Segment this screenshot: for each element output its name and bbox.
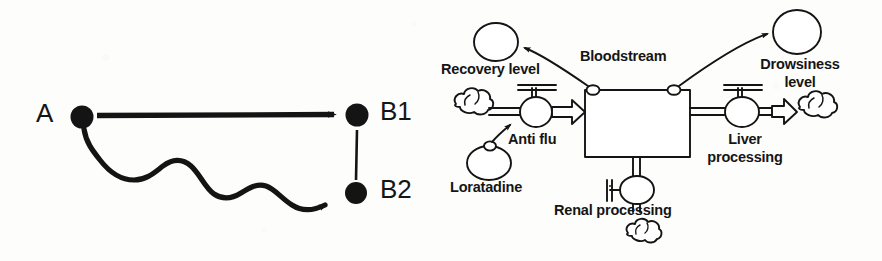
flow-arrow-anti-flu-into-bloodstream bbox=[552, 100, 585, 124]
loratadine-link-origin-circle bbox=[484, 141, 496, 150]
pipe-bloodstream-to-liver-valve bbox=[690, 108, 726, 115]
flow-renal-processing-label: Renal processing bbox=[554, 203, 672, 219]
sink-cloud-right-icon bbox=[799, 91, 837, 117]
left-diagram-group bbox=[71, 104, 369, 210]
figure-canvas: A B1 B2 Bloodstream Recovery level Drows… bbox=[0, 0, 882, 261]
aux-recovery-level-label: Recovery level bbox=[441, 62, 540, 78]
pipe-liver-valve-to-sink bbox=[759, 108, 772, 115]
valve-anti-flu[interactable] bbox=[518, 85, 556, 127]
node-b1-label: B1 bbox=[380, 97, 412, 125]
source-cloud-left-icon bbox=[455, 88, 493, 114]
aux-drowsiness-level-label-line1: Drowsiness bbox=[745, 57, 855, 73]
pipe-bloodstream-to-renal-valve bbox=[633, 157, 640, 176]
aux-loratadine-label: Loratadine bbox=[450, 180, 522, 196]
edge-a-to-b1-straight-arrow bbox=[97, 115, 334, 116]
node-a-label: A bbox=[36, 99, 53, 127]
aux-drowsiness-level-label-line2: level bbox=[745, 75, 855, 91]
node-b1-dot[interactable] bbox=[346, 104, 369, 127]
flow-liver-processing-label-line2: processing bbox=[690, 150, 800, 166]
flow-arrow-liver-to-sink bbox=[772, 99, 797, 124]
valve-liver-processing[interactable] bbox=[724, 85, 762, 127]
stock-bloodstream-box[interactable] bbox=[585, 90, 690, 157]
stock-bloodstream-label: Bloodstream bbox=[580, 49, 666, 65]
node-b2-label: B2 bbox=[380, 175, 412, 203]
flow-liver-processing-label-line1: Liver bbox=[690, 132, 800, 148]
aux-drowsiness-level-oval[interactable] bbox=[773, 10, 821, 54]
aux-recovery-level-oval[interactable] bbox=[474, 23, 518, 61]
flow-anti-flu-label: Anti flu bbox=[508, 132, 556, 148]
sink-cloud-bottom-icon bbox=[627, 219, 662, 243]
valve-renal-processing[interactable] bbox=[607, 176, 654, 204]
edge-b1-to-b2-connector bbox=[356, 130, 357, 180]
pipe-source-to-anti-flu bbox=[489, 108, 521, 115]
edge-a-to-b2-wavy-arrow bbox=[84, 129, 325, 210]
node-b2-dot[interactable] bbox=[345, 182, 367, 204]
node-a-dot[interactable] bbox=[71, 106, 94, 129]
